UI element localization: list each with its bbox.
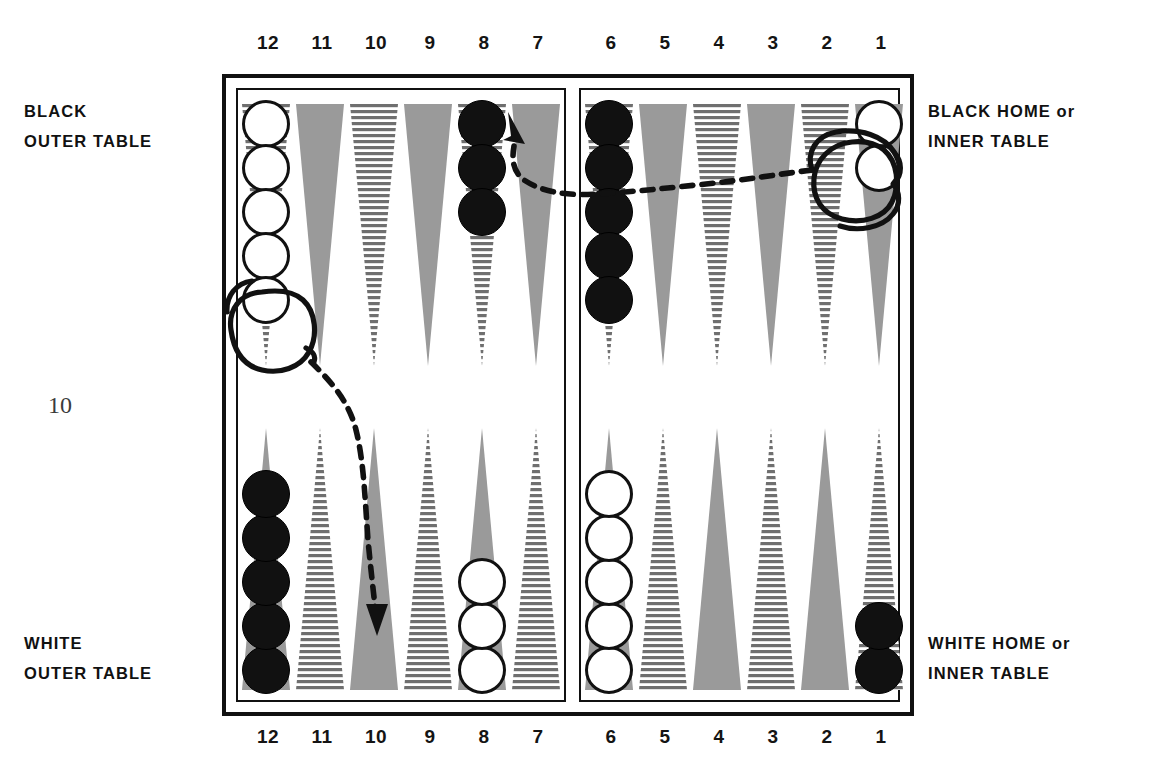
point-bottom-5[interactable] (639, 428, 687, 690)
point-number-bottom-8: 8 (469, 726, 499, 748)
point-number-top-10: 10 (361, 32, 391, 54)
checker-black-bottom-12-5[interactable] (242, 470, 290, 518)
checker-black-top-6-1[interactable] (585, 100, 633, 148)
checker-black-bottom-1-2[interactable] (855, 602, 903, 650)
label-black-home-inner-table: BLACK HOME or INNER TABLE (928, 96, 1075, 156)
point-bottom-9[interactable] (404, 428, 452, 690)
label-black-outer-table: BLACK OUTER TABLE (24, 96, 152, 156)
label-black-home-line2: INNER TABLE (928, 126, 1075, 156)
point-bottom-11[interactable] (296, 428, 344, 690)
point-number-top-8: 8 (469, 32, 499, 54)
point-number-top-5: 5 (650, 32, 680, 54)
label-black-outer-table-line2: OUTER TABLE (24, 126, 152, 156)
point-bottom-4[interactable] (693, 428, 741, 690)
checker-black-bottom-12-2[interactable] (242, 602, 290, 650)
label-white-home-inner-table: WHITE HOME or INNER TABLE (928, 628, 1071, 688)
checker-black-top-8-2[interactable] (458, 144, 506, 192)
point-bottom-7[interactable] (512, 428, 560, 690)
point-bottom-2[interactable] (801, 428, 849, 690)
point-top-11[interactable] (296, 104, 344, 366)
checker-white-top-12-4[interactable] (242, 232, 290, 280)
point-number-bottom-10: 10 (361, 726, 391, 748)
checker-black-top-8-1[interactable] (458, 100, 506, 148)
point-top-4[interactable] (693, 104, 741, 366)
point-number-bottom-12: 12 (253, 726, 283, 748)
point-number-top-12: 12 (253, 32, 283, 54)
point-number-top-9: 9 (415, 32, 445, 54)
point-top-10[interactable] (350, 104, 398, 366)
label-black-home-line1: BLACK HOME or (928, 96, 1075, 126)
page-number: 10 (48, 392, 72, 419)
checker-white-top-12-1[interactable] (242, 100, 290, 148)
checker-white-bottom-6-2[interactable] (585, 602, 633, 650)
point-top-5[interactable] (639, 104, 687, 366)
point-number-top-3: 3 (758, 32, 788, 54)
checker-white-top-1-1[interactable] (855, 100, 903, 148)
point-number-bottom-3: 3 (758, 726, 788, 748)
checker-white-bottom-6-1[interactable] (585, 646, 633, 694)
checker-white-top-12-3[interactable] (242, 188, 290, 236)
point-numbers-top: 121110987654321 (222, 32, 914, 62)
board-half-left (236, 88, 566, 702)
point-number-top-4: 4 (704, 32, 734, 54)
checker-black-bottom-12-1[interactable] (242, 646, 290, 694)
checker-white-top-1-2[interactable] (855, 144, 903, 192)
label-white-home-line1: WHITE HOME or (928, 628, 1071, 658)
point-number-top-7: 7 (523, 32, 553, 54)
checker-white-bottom-6-3[interactable] (585, 558, 633, 606)
checker-black-top-6-3[interactable] (585, 188, 633, 236)
point-number-bottom-5: 5 (650, 726, 680, 748)
point-number-top-2: 2 (812, 32, 842, 54)
point-top-3[interactable] (747, 104, 795, 366)
point-number-bottom-9: 9 (415, 726, 445, 748)
point-number-bottom-4: 4 (704, 726, 734, 748)
label-white-outer-table-line1: WHITE (24, 628, 152, 658)
label-white-home-line2: INNER TABLE (928, 658, 1071, 688)
point-top-9[interactable] (404, 104, 452, 366)
label-black-outer-table-line1: BLACK (24, 96, 152, 126)
checker-black-top-8-3[interactable] (458, 188, 506, 236)
checker-black-top-6-2[interactable] (585, 144, 633, 192)
point-bottom-10[interactable] (350, 428, 398, 690)
point-number-top-6: 6 (596, 32, 626, 54)
point-number-top-11: 11 (307, 32, 337, 54)
label-white-outer-table-line2: OUTER TABLE (24, 658, 152, 688)
checker-white-top-12-5[interactable] (242, 276, 290, 324)
point-number-bottom-1: 1 (866, 726, 896, 748)
checker-white-bottom-6-5[interactable] (585, 470, 633, 518)
checker-white-top-12-2[interactable] (242, 144, 290, 192)
board-half-right (579, 88, 900, 702)
point-number-bottom-6: 6 (596, 726, 626, 748)
point-number-bottom-2: 2 (812, 726, 842, 748)
point-number-bottom-11: 11 (307, 726, 337, 748)
point-top-2[interactable] (801, 104, 849, 366)
label-white-outer-table: WHITE OUTER TABLE (24, 628, 152, 688)
checker-black-bottom-12-3[interactable] (242, 558, 290, 606)
point-numbers-bottom: 121110987654321 (222, 726, 914, 756)
checker-black-bottom-12-4[interactable] (242, 514, 290, 562)
point-top-7[interactable] (512, 104, 560, 366)
point-number-top-1: 1 (866, 32, 896, 54)
backgammon-board (222, 74, 914, 716)
point-number-bottom-7: 7 (523, 726, 553, 748)
point-bottom-3[interactable] (747, 428, 795, 690)
checker-white-bottom-8-1[interactable] (458, 646, 506, 694)
checker-black-bottom-1-1[interactable] (855, 646, 903, 694)
checker-black-top-6-4[interactable] (585, 232, 633, 280)
checker-white-bottom-8-3[interactable] (458, 558, 506, 606)
checker-black-top-6-5[interactable] (585, 276, 633, 324)
checker-white-bottom-8-2[interactable] (458, 602, 506, 650)
checker-white-bottom-6-4[interactable] (585, 514, 633, 562)
